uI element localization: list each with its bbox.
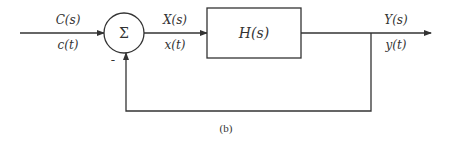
- sigma-symbol: Σ: [119, 25, 129, 41]
- error-time-label: x(t): [165, 38, 186, 52]
- output-time-label: y(t): [385, 38, 407, 52]
- block-label: H(s): [238, 25, 269, 41]
- output-laplace-label: Y(s): [384, 13, 408, 27]
- summing-junction: Σ: [104, 13, 144, 53]
- block-diagram: C(s) c(t) Σ - X(s) x(t) H(s) Y(s) y(t) (…: [0, 0, 451, 143]
- input-time-label: c(t): [58, 38, 79, 52]
- error-laplace-label: X(s): [162, 13, 187, 27]
- input-laplace-label: C(s): [56, 13, 81, 27]
- figure-caption: (b): [220, 122, 233, 135]
- feedback-minus-sign: -: [111, 52, 115, 67]
- transfer-function-block: H(s): [207, 8, 301, 58]
